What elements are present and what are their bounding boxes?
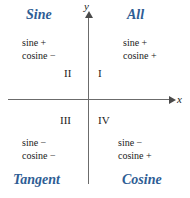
quadrant-numeral-four: IV bbox=[98, 114, 110, 126]
quadrant-four-cosine: cosine + bbox=[118, 149, 152, 162]
y-axis-arrow-icon bbox=[85, 11, 93, 18]
quadrant-heading-sine: Sine bbox=[26, 7, 52, 23]
x-axis-arrow-icon bbox=[169, 96, 176, 104]
quadrant-four-sine: sine − bbox=[118, 136, 152, 149]
quadrant-one-cosine: cosine + bbox=[123, 49, 157, 62]
quadrant-numeral-one: I bbox=[98, 67, 102, 79]
quadrant-signs-four: sine − cosine + bbox=[118, 136, 152, 162]
quadrant-heading-cosine: Cosine bbox=[122, 172, 162, 188]
quadrant-three-sine: sine − bbox=[22, 136, 56, 149]
quadrant-numeral-three: III bbox=[60, 114, 71, 126]
quadrant-three-cosine: cosine − bbox=[22, 149, 56, 162]
y-axis-line bbox=[88, 14, 89, 184]
x-axis-line bbox=[8, 99, 172, 100]
x-axis-label: x bbox=[177, 93, 182, 105]
quadrant-heading-tangent: Tangent bbox=[13, 172, 60, 188]
quadrant-signs-two: sine + cosine − bbox=[22, 36, 56, 62]
quadrant-sign-figure: x y Sine sine + cosine − II All sine + c… bbox=[0, 0, 190, 198]
quadrant-heading-all: All bbox=[127, 7, 144, 23]
quadrant-numeral-two: II bbox=[64, 67, 71, 79]
quadrant-signs-three: sine − cosine − bbox=[22, 136, 56, 162]
quadrant-two-sine: sine + bbox=[22, 36, 56, 49]
quadrant-signs-one: sine + cosine + bbox=[123, 36, 157, 62]
quadrant-two-cosine: cosine − bbox=[22, 49, 56, 62]
quadrant-one-sine: sine + bbox=[123, 36, 157, 49]
y-axis-label: y bbox=[84, 0, 89, 12]
